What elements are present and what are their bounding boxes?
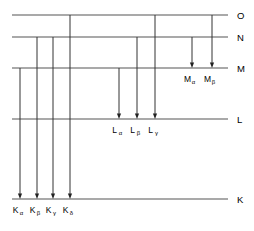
transition-label-sub-M-beta: β	[212, 79, 216, 85]
transition-label-M-alpha: Mα	[184, 74, 196, 85]
transition-label-K-gamma: Kγ	[46, 205, 56, 216]
transition-label-base-K-beta: K	[30, 205, 36, 215]
level-labels-group: ONMLK	[237, 10, 245, 205]
transition-label-L-alpha: Lα	[112, 125, 123, 136]
transition-label-base-M-alpha: M	[184, 74, 191, 84]
transition-labels-group: KαKβKγKδLαLβLγMαMβ	[13, 74, 216, 216]
transition-label-K-delta: Kδ	[63, 205, 74, 216]
transition-arrowhead-K-delta	[68, 194, 72, 200]
transition-label-sub-L-gamma: γ	[155, 130, 158, 136]
transition-label-base-L-beta: L	[130, 125, 135, 135]
transition-label-base-L-alpha: L	[112, 125, 117, 135]
level-label-K: K	[237, 194, 244, 205]
diagram-canvas: ONMLK KαKβKγKδLαLβLγMαMβ	[0, 0, 254, 231]
level-label-L: L	[237, 114, 242, 125]
transition-arrowhead-K-gamma	[51, 194, 55, 200]
transition-arrowhead-M-alpha	[190, 63, 194, 69]
transition-label-sub-K-gamma: γ	[53, 210, 56, 216]
transition-label-L-beta: Lβ	[130, 125, 141, 136]
level-label-M: M	[237, 63, 245, 74]
transition-label-sub-K-alpha: α	[20, 210, 24, 216]
transition-label-base-M-beta: M	[204, 74, 211, 84]
transition-label-base-L-gamma: L	[148, 125, 153, 135]
transition-label-base-K-delta: K	[63, 205, 69, 215]
transition-arrowhead-M-beta	[210, 63, 214, 69]
transition-label-sub-K-beta: β	[37, 210, 41, 216]
transition-label-base-K-alpha: K	[13, 205, 19, 215]
transitions-group	[18, 15, 214, 199]
transition-label-sub-M-alpha: α	[192, 79, 196, 85]
transition-arrowhead-K-beta	[35, 194, 39, 200]
transition-label-sub-K-delta: δ	[70, 210, 74, 216]
transition-label-K-alpha: Kα	[13, 205, 24, 216]
transition-arrowhead-L-beta	[135, 114, 139, 120]
transition-label-K-beta: Kβ	[30, 205, 41, 216]
transition-arrowhead-L-gamma	[153, 114, 157, 120]
transition-arrowhead-L-alpha	[117, 114, 121, 120]
transition-label-base-K-gamma: K	[46, 205, 52, 215]
level-label-N: N	[237, 32, 244, 43]
energy-levels-group	[12, 15, 228, 199]
transition-label-L-gamma: Lγ	[148, 125, 158, 136]
transition-label-sub-L-beta: β	[137, 130, 141, 136]
xray-transition-diagram: ONMLK KαKβKγKδLαLβLγMαMβ	[0, 0, 254, 231]
transition-label-sub-L-alpha: α	[119, 130, 123, 136]
transition-arrowhead-K-alpha	[18, 194, 22, 200]
transition-label-M-beta: Mβ	[204, 74, 216, 85]
level-label-O: O	[237, 10, 244, 21]
